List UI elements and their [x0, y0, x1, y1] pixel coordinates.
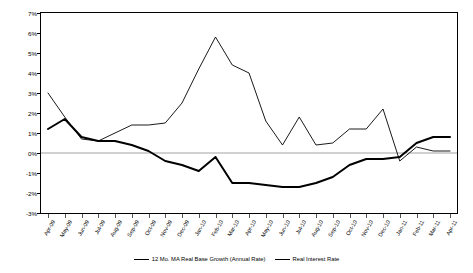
x-axis-tick-mark	[48, 214, 49, 218]
x-axis-tick-label: Dec-10	[377, 219, 391, 238]
series-line	[48, 37, 450, 161]
x-axis-tick-mark	[366, 214, 367, 218]
x-axis-tick-label: Feb-10	[210, 219, 224, 237]
chart-legend: 12 Mo. MA Real Base Growth (Annual Rate)…	[0, 252, 473, 266]
legend-entry[interactable]: 12 Mo. MA Real Base Growth (Annual Rate)	[134, 256, 266, 262]
x-axis-tick-mark	[283, 214, 284, 218]
x-axis-tick-mark	[450, 214, 451, 218]
legend-line-swatch	[275, 259, 290, 260]
x-axis-tick-mark	[165, 214, 166, 218]
x-axis-tick-mark	[333, 214, 334, 218]
x-axis-tick-label: Jan-10	[193, 219, 207, 237]
legend-entry[interactable]: Real Interest Rate	[275, 256, 340, 262]
x-axis-tick-mark	[400, 214, 401, 218]
x-axis-tick-mark	[249, 214, 250, 218]
x-axis-tick-label: May-10	[259, 219, 274, 238]
plot-area	[40, 12, 458, 214]
x-axis-tick-label: Nov-10	[360, 219, 374, 238]
x-axis-tick-label: Mar-11	[428, 219, 442, 237]
legend-label: 12 Mo. MA Real Base Growth (Annual Rate)	[152, 256, 266, 262]
x-axis-tick-label: May-09	[58, 219, 73, 238]
x-axis-tick-label: Aug-09	[109, 219, 123, 238]
x-axis-tick-label: Jan-11	[394, 219, 408, 236]
x-axis-tick-mark	[299, 214, 300, 218]
x-axis-tick-label: Mar-10	[226, 219, 240, 237]
x-axis-tick-mark	[149, 214, 150, 218]
x-axis-tick-mark	[232, 214, 233, 218]
x-axis-tick-mark	[115, 214, 116, 218]
x-axis-tick-mark	[417, 214, 418, 218]
chart-container: 7%6%5%4%3%2%1%0%-1%-2%-3% Apr-09May-09Ju…	[0, 0, 473, 273]
x-axis-tick-mark	[350, 214, 351, 218]
series-canvas	[41, 13, 457, 213]
x-axis-tick-label: Oct-10	[344, 219, 358, 237]
x-axis-tick-mark	[216, 214, 217, 218]
x-axis-tick-label: Dec-09	[176, 219, 190, 238]
x-axis-tick-mark	[132, 214, 133, 218]
x-axis-tick-label: Feb-11	[411, 219, 425, 237]
x-axis-tick-label: Jun-10	[277, 219, 291, 237]
x-axis-tick-label: Nov-09	[159, 219, 173, 238]
x-axis-tick-mark	[182, 214, 183, 218]
x-axis-tick-mark	[316, 214, 317, 218]
legend-line-swatch	[134, 259, 149, 260]
x-axis-tick-mark	[266, 214, 267, 218]
x-axis-tick-mark	[82, 214, 83, 218]
x-axis-tick-label: Oct-09	[143, 219, 157, 237]
x-axis-tick-label: Apr-11	[445, 219, 458, 236]
x-axis-labels: Apr-09May-09Jun-09Jul-09Aug-09Sep-09Oct-…	[40, 219, 458, 251]
x-axis-tick-label: Jul-10	[295, 219, 308, 235]
x-axis-tick-mark	[98, 214, 99, 218]
x-axis-tick-label: Jul-09	[94, 219, 107, 235]
x-axis-tick-label: Apr-10	[244, 219, 258, 237]
legend-label: Real Interest Rate	[293, 256, 340, 262]
x-axis-tick-label: Jun-09	[76, 219, 90, 237]
x-axis-tick-mark	[199, 214, 200, 218]
y-axis-ticks	[0, 12, 40, 214]
x-axis-tick-label: Aug-10	[310, 219, 324, 238]
x-axis-tick-mark	[433, 214, 434, 218]
x-axis-tick-label: Sep-10	[327, 219, 341, 238]
x-axis-tick-label: Sep-09	[126, 219, 140, 238]
x-axis-tick-label: Apr-09	[43, 219, 57, 237]
x-axis-tick-mark	[65, 214, 66, 218]
x-axis-tick-mark	[383, 214, 384, 218]
